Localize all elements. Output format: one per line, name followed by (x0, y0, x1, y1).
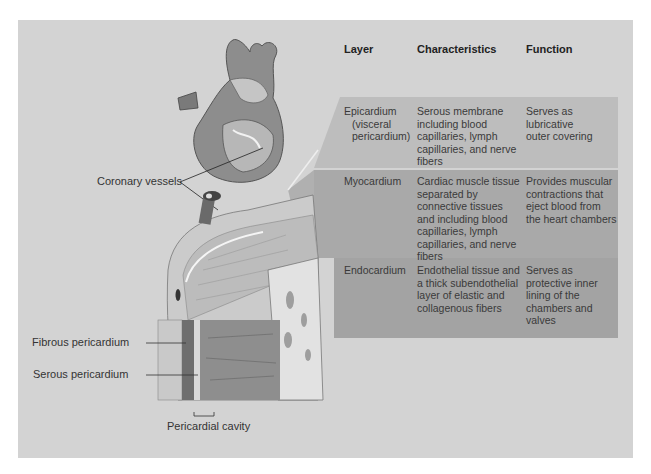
table-row-epicardium-characteristics: Serous membrane including blood capillar… (417, 105, 516, 168)
header-layer: Layer (344, 43, 373, 55)
heart-wall-illustration (18, 20, 633, 458)
table-row-endocardium-characteristics: Endothelial tissue and a thick subendoth… (417, 264, 520, 314)
heart-wall-section (158, 191, 323, 400)
table-row-epicardium-layer: Epicardium (visceral pericardium) (344, 105, 410, 143)
pericardial-cavity-label: Pericardial cavity (167, 420, 250, 432)
table-row-endocardium-layer: Endocardium (344, 264, 406, 277)
table-row-endocardium-function: Serves as protective inner lining of the… (526, 264, 598, 327)
fibrous-pericardium-label: Fibrous pericardium (32, 336, 129, 348)
figure-panel: Coronary vessels Fibrous pericardium Ser… (18, 20, 633, 458)
coronary-vessels-label: Coronary vessels (97, 175, 182, 187)
header-function: Function (526, 43, 572, 55)
table-row-myocardium-characteristics: Cardiac muscle tissue separated by conne… (417, 175, 520, 263)
table-row-myocardium-function: Provides muscular contractions that ejec… (526, 175, 616, 225)
table-row-epicardium-function: Serves as lubricative outer covering (526, 105, 593, 143)
table-row-myocardium-layer: Myocardium (344, 175, 401, 188)
serous-pericardium-label: Serous pericardium (33, 368, 128, 380)
header-characteristics: Characteristics (417, 43, 497, 55)
